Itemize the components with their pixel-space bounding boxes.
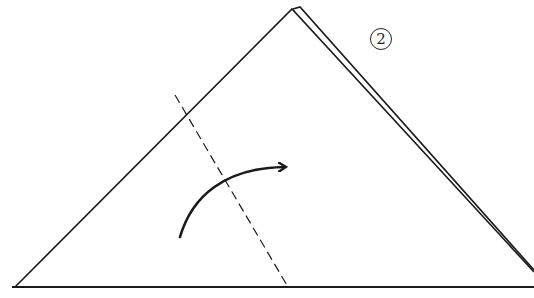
front-triangle-edge (15, 9, 534, 287)
origami-diagram (0, 0, 534, 298)
back-layer-edge (293, 7, 534, 270)
fold-direction-arrow-icon (180, 167, 284, 237)
fold-line-dashed (175, 95, 288, 287)
step-number-label: 2 (376, 32, 386, 47)
step-number-badge: 2 (370, 28, 392, 50)
